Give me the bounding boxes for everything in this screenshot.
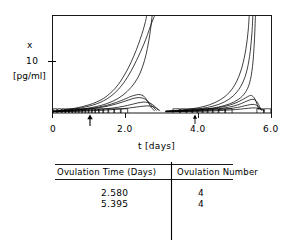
- annotation-arrow-2: [193, 115, 197, 124]
- table-cell-number-row2: 4: [198, 199, 204, 210]
- ovulation-results-table: Ovulation Time (Days) Ovulation Number 2…: [0, 160, 288, 247]
- x-tick-label-2: 2.0: [117, 124, 133, 134]
- table-cell-time-row2: 5.395: [101, 199, 128, 210]
- x-ticks: [53, 113, 272, 118]
- table-header-ovulation-time: Ovulation Time (Days): [57, 167, 156, 177]
- x-tick-label-4: 4.0: [190, 124, 206, 134]
- y-axis-units-label: [pg/ml]: [13, 71, 46, 81]
- ovulation-simulation-figure: x 10 [pg/ml] 0 2.0 4.0 6.0 t [days] Ovul…: [0, 0, 288, 247]
- x-tick-label-0: 0: [50, 124, 56, 134]
- table-header-ovulation-number: Ovulation Number: [177, 167, 258, 177]
- plot-panel: x 10 [pg/ml] 0 2.0 4.0 6.0 t [days]: [0, 0, 288, 155]
- annotation-arrow-1: [87, 114, 92, 126]
- y-axis-variable-label: x: [27, 40, 32, 50]
- x-axis-title: t [days]: [138, 141, 175, 151]
- table-cell-number-row1: 4: [198, 188, 204, 199]
- table-cell-time-row1: 2.580: [101, 188, 128, 199]
- x-tick-label-6: 6.0: [263, 124, 279, 134]
- y-axis-tick-label-10: 10: [26, 56, 38, 66]
- plot-frame: [53, 16, 272, 114]
